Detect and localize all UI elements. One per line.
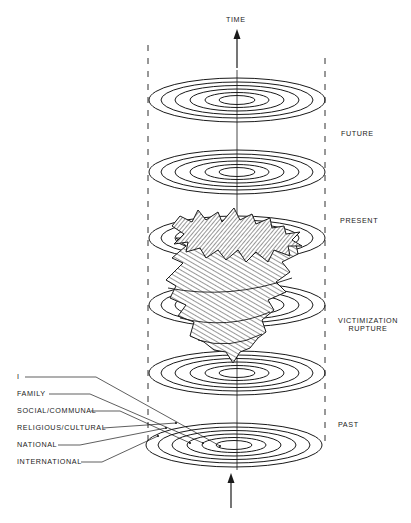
level-label-religious-cultural: RELIGIOUS/CULTURAL [17,424,106,432]
label-rupture-line2: RUPTURE [330,325,406,333]
label-past: PAST [338,421,359,429]
label-victimization-rupture: VICTIMIZATION RUPTURE [330,317,406,334]
label-future: FUTURE [341,130,374,138]
time-axis-label: TIME [226,16,246,24]
time-cylinder-diagram [0,0,411,523]
label-present: PRESENT [340,217,378,225]
level-label-social-communal: SOCIAL/COMMUNAL [17,407,96,415]
bottom-arrow-up-icon [228,473,235,483]
level-label-international: INTERNATIONAL [17,458,82,466]
time-arrow-up-icon [234,29,241,39]
level-label-i: I [17,373,20,381]
level-label-family: FAMILY [17,390,46,398]
level-label-national: NATIONAL [17,441,57,449]
